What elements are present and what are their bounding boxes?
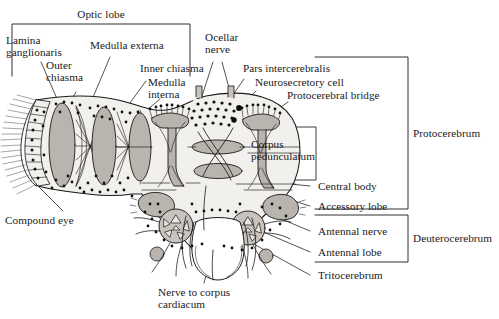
label-medulla-externa: Medulla externa [90, 39, 164, 51]
label-corpus-pedunculatum: Corpus pedunculatum [251, 138, 315, 163]
label-protocerebrum: Protocerebrum [413, 127, 480, 139]
label-deuterocerebrum: Deuterocerebrum [413, 232, 492, 244]
label-inner-chiasma: Inner chiasma [140, 62, 204, 74]
label-pars-intercerebralis: Pars intercerebralis [243, 62, 330, 74]
insect-brain-figure: Optic lobe Lamina ganglionaris Outer chi… [0, 0, 499, 319]
label-tritocerebrum: Tritocerebrum [318, 269, 383, 281]
label-lamina-ganglionaris: Lamina ganglionaris [6, 34, 62, 59]
central-body [194, 164, 242, 179]
label-central-body: Central body [318, 180, 377, 192]
label-neurosecretory-cell: Neurosecretory cell [255, 76, 344, 88]
label-outer-chiasma: Outer chiasma [46, 59, 83, 84]
antennal-lobe-left [159, 209, 193, 243]
label-antennal-lobe: Antennal lobe [318, 246, 382, 258]
label-ocellar-nerve: Ocellar nerve [205, 31, 238, 56]
label-nerve-to-corpus-cardiacum: Nerve to corpus cardiacum [158, 286, 230, 311]
label-compound-eye: Compound eye [5, 214, 74, 226]
label-optic-lobe: Optic lobe [64, 8, 138, 20]
brain-diagram-artwork [0, 0, 499, 319]
esophageal-foramen [192, 218, 244, 281]
medulla-interna [92, 107, 116, 185]
label-accessory-lobe: Accessory lobe [318, 200, 387, 212]
label-protocerebral-bridge: Protocerebral bridge [287, 89, 380, 101]
label-medulla-interna: Medulla interna [148, 76, 186, 101]
medulla-externa [49, 103, 75, 187]
label-antennal-nerve: Antennal nerve [318, 225, 387, 237]
